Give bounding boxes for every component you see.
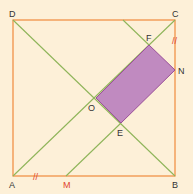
label-f: F xyxy=(146,33,152,43)
label-d: D xyxy=(9,9,16,19)
label-a: A xyxy=(9,180,15,190)
label-n: N xyxy=(178,66,185,76)
line-me xyxy=(66,123,121,176)
tick-mark-am: // xyxy=(33,172,39,182)
label-c: C xyxy=(172,9,179,19)
label-m: M xyxy=(63,180,71,190)
label-o: O xyxy=(88,103,95,113)
tick-mark-cn: // xyxy=(172,36,178,46)
geometry-diagram: // // D C A B M O E F N xyxy=(0,0,193,194)
label-e: E xyxy=(117,128,123,138)
label-b: B xyxy=(172,180,178,190)
